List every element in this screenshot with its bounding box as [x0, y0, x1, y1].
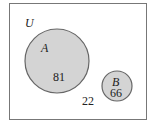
- outside-value: 22: [82, 94, 94, 108]
- set-b-value: 66: [110, 86, 122, 100]
- universe-label: U: [25, 16, 35, 30]
- set-a-value: 81: [53, 70, 65, 84]
- set-a-label: A: [40, 41, 49, 55]
- venn-diagram: U A 81 B 66 22: [0, 0, 153, 127]
